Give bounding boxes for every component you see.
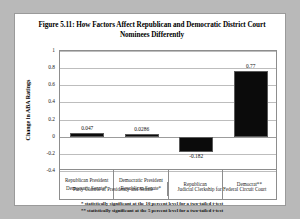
- bar: [125, 134, 159, 136]
- y-axis-tick-label: 0.2: [33, 116, 55, 122]
- note-two-star: ** statistically significant at the 5 pe…: [29, 207, 275, 214]
- page-title: Figure 5.11: How Factors Affect Republic…: [33, 21, 271, 40]
- bar: [234, 71, 268, 137]
- x-axis-group-label: Judicial Clerkship for Federal Circuit C…: [168, 182, 277, 196]
- plot-canvas: 0.0470.0286-0.1820.77: [59, 50, 277, 170]
- bar-value-label: 0.047: [63, 125, 111, 131]
- bar-value-label: -0.182: [172, 153, 220, 159]
- x-axis-group-label: Party Control of Presidency and Senate: [59, 182, 168, 196]
- figure-frame: Figure 5.11: How Factors Affect Republic…: [14, 13, 286, 206]
- y-axis-tick-label: 0.4: [33, 98, 55, 104]
- y-axis-tick-label: -0.4: [33, 167, 55, 173]
- y-axis-title: Change in ABA Ratings: [23, 50, 33, 170]
- bar: [70, 133, 104, 137]
- gridline: [60, 51, 276, 52]
- y-axis-tick-label: 0: [33, 133, 55, 139]
- chart-plot-area: Change in ABA Ratings 10.80.60.40.20-0.2…: [25, 50, 277, 170]
- y-axis-tick-label: 0.8: [33, 64, 55, 70]
- bar-value-label: 0.0286: [118, 126, 166, 132]
- note-one-star: * statistically significant at the 10 pe…: [29, 200, 275, 207]
- x-axis-group-row: Party Control of Presidency and SenateJu…: [59, 182, 277, 196]
- gridline: [60, 137, 276, 138]
- bar-value-label: 0.77: [227, 63, 275, 69]
- gridline: [60, 154, 276, 155]
- y-axis-tick-label: 0.6: [33, 81, 55, 87]
- y-axis-tick-label: 1: [33, 47, 55, 53]
- figure-notes: * statistically significant at the 10 pe…: [29, 200, 275, 215]
- y-axis-tick-label: -0.2: [33, 150, 55, 156]
- bar: [179, 137, 213, 153]
